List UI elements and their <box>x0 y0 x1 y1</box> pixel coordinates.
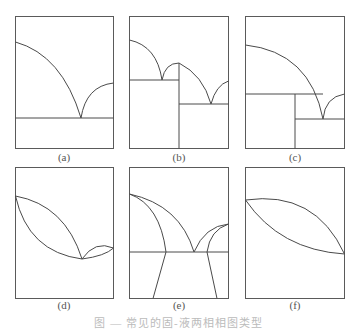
solidus-left <box>130 194 167 252</box>
liquidus-right <box>323 94 345 119</box>
solidus-right <box>207 224 229 252</box>
solvus-right <box>207 252 217 299</box>
panel-a-label: (a) <box>44 151 84 163</box>
panel-b-label: (b) <box>159 151 199 163</box>
panel-d-label: (d) <box>44 299 84 311</box>
panel-e-frame <box>130 168 229 299</box>
liquidus-1 <box>130 40 163 80</box>
liquidus-left <box>130 194 195 252</box>
liquidus-4 <box>211 81 229 104</box>
liquidus-left <box>246 45 324 119</box>
solvus-left <box>153 252 166 299</box>
panel-c-label: (c) <box>275 151 315 163</box>
panel-b-diagram <box>130 17 229 149</box>
liquidus <box>246 199 345 254</box>
liquidus-right <box>82 246 114 259</box>
panel-f-label: (f) <box>275 299 315 311</box>
liquidus-upper <box>16 196 83 259</box>
figure-caption: 图 — 常见的固-液两相相图类型 <box>0 314 357 330</box>
panel-f-frame <box>246 168 345 299</box>
panel-e-label: (e) <box>159 299 199 311</box>
panel-a-frame <box>16 17 114 149</box>
panel-d-frame <box>16 168 114 299</box>
solidus <box>246 200 345 254</box>
liquidus-left <box>16 42 82 118</box>
panel-a-diagram <box>16 17 114 149</box>
panel-c-diagram <box>246 17 345 149</box>
liquidus-2 <box>162 63 179 80</box>
solidus-lower <box>16 196 83 259</box>
panel-f-diagram <box>246 168 345 299</box>
liquidus-right <box>81 83 114 118</box>
panel-e-diagram <box>130 168 229 299</box>
liquidus-3 <box>179 63 211 104</box>
panel-d-diagram <box>16 168 114 299</box>
